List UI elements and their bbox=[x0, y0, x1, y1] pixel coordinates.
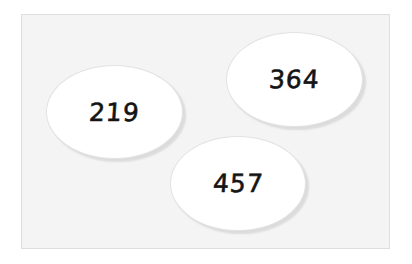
number-oval-457: 457 bbox=[170, 136, 306, 231]
number-label: 219 bbox=[88, 98, 141, 127]
number-label: 364 bbox=[268, 65, 321, 94]
number-oval-219: 219 bbox=[46, 65, 183, 159]
diagram-frame: 219 364 457 bbox=[21, 14, 390, 249]
number-oval-364: 364 bbox=[226, 32, 363, 127]
number-label: 457 bbox=[212, 169, 265, 198]
